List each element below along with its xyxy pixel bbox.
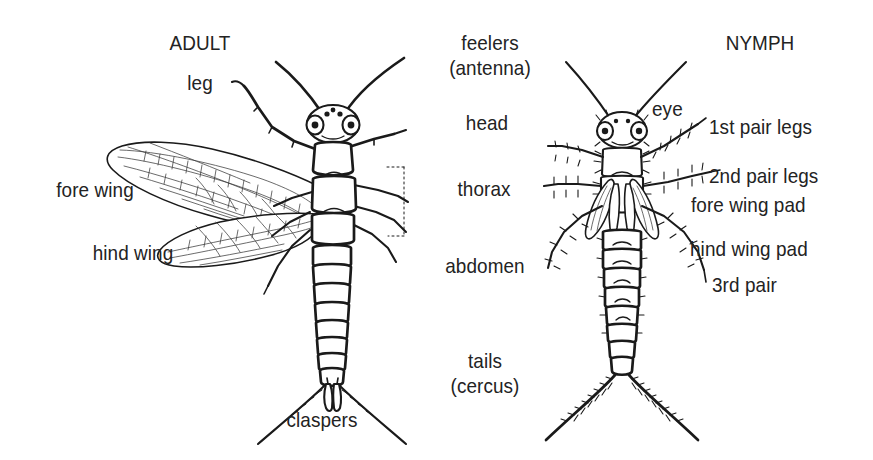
label-hind-wing: hind wing bbox=[75, 240, 192, 265]
adult-thorax-guide bbox=[386, 167, 404, 236]
label-feelers-line1: feelers bbox=[436, 30, 544, 55]
label-leg: leg bbox=[173, 70, 227, 95]
label-feelers-line2: (antenna) bbox=[436, 55, 544, 80]
label-tails-line1: tails bbox=[436, 348, 535, 373]
label-tails-line2: (cercus) bbox=[427, 373, 544, 398]
label-adult-title: ADULT bbox=[146, 30, 254, 55]
label-3rd-pair: 3rd pair bbox=[712, 272, 777, 297]
label-head: head bbox=[438, 110, 537, 135]
nymph-tails bbox=[546, 375, 698, 440]
label-eye: eye bbox=[652, 96, 683, 121]
label-abdomen: abdomen bbox=[422, 253, 548, 278]
label-thorax: thorax bbox=[430, 176, 538, 201]
nymph-abdomen bbox=[597, 230, 647, 375]
label-1st-pair-legs: 1st pair legs bbox=[709, 114, 812, 139]
label-hind-wing-pad: hind wing pad bbox=[690, 236, 808, 261]
label-nymph-title: NYMPH bbox=[702, 30, 819, 55]
adult-abdomen bbox=[313, 245, 351, 386]
label-claspers: claspers bbox=[268, 407, 376, 432]
adult-thorax bbox=[312, 142, 356, 245]
label-fore-wing: fore wing bbox=[37, 177, 154, 202]
label-2nd-pair-legs: 2nd pair legs bbox=[709, 163, 818, 188]
illustration-canvas: .ln{fill:none;stroke:#1a1a1a;stroke-line… bbox=[0, 0, 873, 460]
label-fore-wing-pad: fore wing pad bbox=[691, 192, 806, 217]
adult-head bbox=[307, 105, 360, 143]
nymph-head bbox=[595, 110, 649, 148]
